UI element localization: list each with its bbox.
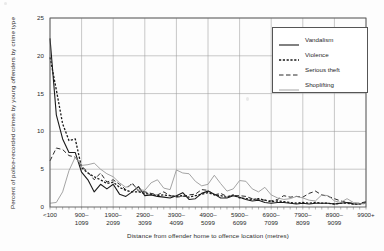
legend-line-swatch [278, 50, 300, 58]
chart-figure: 0510152025 <100900– 10991900– 20992900– … [0, 0, 384, 251]
y-tick-label: 25 [28, 14, 44, 21]
x-tick-label: <100 [34, 211, 66, 219]
legend-item-violence[interactable]: Violence [278, 47, 329, 61]
legend-item-vandalism[interactable]: Vandalism [278, 32, 333, 46]
legend-item-label: Vandalism [305, 36, 333, 43]
x-tick-label: 4900– 5099 [192, 211, 224, 226]
legend-item-label: Violence [305, 51, 329, 58]
y-tick-label: 15 [28, 90, 44, 97]
x-tick-label: 9900+ [350, 211, 382, 219]
legend-line-swatch [278, 65, 300, 73]
y-axis-title: Percent of police-recorded crimes by you… [9, 17, 17, 209]
y-tick-label: 5 [28, 165, 44, 172]
legend-line-swatch [278, 80, 300, 88]
y-tick-label: 10 [28, 127, 44, 134]
x-tick-label: 2900– 3099 [129, 211, 161, 226]
legend-item-shoplifting[interactable]: Shoplifting [278, 77, 334, 91]
x-tick-label: 3900– 4099 [160, 211, 192, 226]
legend-item-serious-theft[interactable]: Serious theft [278, 62, 340, 76]
y-tick-label: 20 [28, 52, 44, 59]
x-axis-title: Distance from offender home to offence l… [50, 232, 366, 239]
x-tick-label: 1900– 2099 [97, 211, 129, 226]
x-tick-label: 7900– 8099 [287, 211, 319, 226]
chart-legend: VandalismViolenceSerious theftShopliftin… [272, 27, 368, 93]
x-tick-label: 6900– 7099 [255, 211, 287, 226]
legend-item-label: Serious theft [305, 66, 340, 73]
y-tick-label: 0 [28, 203, 44, 210]
x-tick-label: 900– 1099 [66, 211, 98, 226]
legend-line-swatch [278, 35, 300, 43]
legend-item-label: Shoplifting [305, 81, 334, 88]
x-tick-label: 8900– 9099 [318, 211, 350, 226]
x-tick-label: 5900– 6099 [224, 211, 256, 226]
y-axis-title-container: Percent of police-recorded crimes by you… [2, 0, 24, 225]
